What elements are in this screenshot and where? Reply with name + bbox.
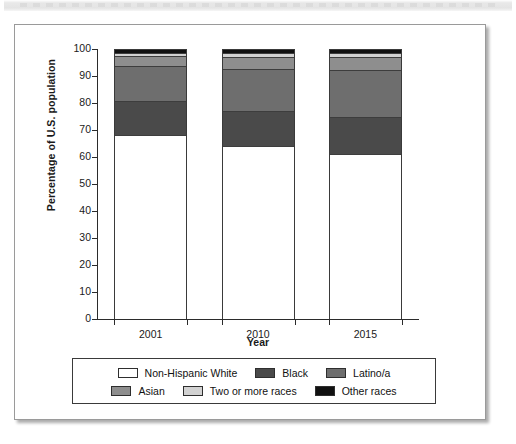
legend-label: Black [282, 367, 308, 379]
bar-segment-non-hispanic-white [330, 154, 401, 319]
bar-segment-asian [223, 57, 294, 69]
bar-segment-asian [330, 57, 401, 71]
y-tick-label: 40 [53, 205, 91, 216]
figure-card: Percentage of U.S. population 1009080706… [14, 24, 486, 420]
y-tick-mark [92, 184, 97, 185]
y-tick-mark [92, 157, 97, 158]
y-tick-label: 80 [53, 97, 91, 108]
legend-swatch-non-hispanic-white [118, 368, 138, 378]
legend-swatch-asian [111, 386, 131, 396]
bar-segment-black [115, 101, 186, 135]
y-tick-mark [92, 76, 97, 77]
x-tick-mark [402, 319, 403, 325]
legend-swatch-latino-a [326, 368, 346, 378]
bar-segment-non-hispanic-white [115, 135, 186, 319]
bar-segment-black [330, 117, 401, 153]
legend-item: Non-Hispanic White [118, 367, 238, 379]
bar-segment-non-hispanic-white [223, 146, 294, 319]
legend-row: AsianTwo or more racesOther races [73, 382, 435, 400]
y-tick-mark [92, 49, 97, 50]
legend-item: Black [255, 367, 308, 379]
y-tick-mark [92, 103, 97, 104]
y-tick-label: 20 [53, 259, 91, 270]
y-tick-label: 0 [53, 313, 91, 324]
y-tick-label: 50 [53, 178, 91, 189]
bar-segment-black [223, 111, 294, 146]
legend-label: Two or more races [210, 385, 297, 397]
chart-legend: Non-Hispanic WhiteBlackLatino/a AsianTwo… [72, 358, 436, 404]
y-tick-label: 10 [53, 286, 91, 297]
y-tick-mark [92, 238, 97, 239]
x-tick-mark [222, 319, 223, 325]
x-tick-mark [114, 319, 115, 325]
legend-label: Latino/a [353, 367, 390, 379]
bar-segment-latino-a [115, 66, 186, 101]
legend-label: Non-Hispanic White [145, 367, 238, 379]
x-tick-mark [295, 319, 296, 325]
x-axis-title: Year [97, 336, 419, 348]
legend-swatch-black [255, 368, 275, 378]
legend-item: Two or more races [183, 385, 297, 397]
y-tick-mark [92, 292, 97, 293]
x-axis-line [97, 319, 419, 320]
x-tick-mark [329, 319, 330, 325]
legend-label: Asian [138, 385, 164, 397]
y-tick-label: 100 [53, 43, 91, 54]
bar-2015 [329, 49, 402, 319]
y-tick-label: 60 [53, 151, 91, 162]
bar-segment-latino-a [223, 69, 294, 111]
legend-swatch-two-or-more-races [183, 386, 203, 396]
page-header-strip [4, 0, 512, 11]
legend-row: Non-Hispanic WhiteBlackLatino/a [73, 364, 435, 382]
y-tick-mark [92, 265, 97, 266]
y-tick-label: 90 [53, 70, 91, 81]
y-tick-mark [92, 130, 97, 131]
legend-item: Other races [315, 385, 397, 397]
y-tick-label: 70 [53, 124, 91, 135]
legend-item: Latino/a [326, 367, 390, 379]
plot-area: 1009080706050403020100 200120102015 [97, 49, 419, 319]
chart-figure: Percentage of U.S. population 1009080706… [15, 25, 487, 421]
legend-item: Asian [111, 385, 164, 397]
bar-segment-latino-a [330, 70, 401, 117]
bar-2001 [114, 49, 187, 319]
y-tick-label: 30 [53, 232, 91, 243]
bar-segment-asian [115, 56, 186, 66]
bar-2010 [222, 49, 295, 319]
y-tick-mark [92, 319, 97, 320]
y-tick-mark [92, 211, 97, 212]
legend-swatch-other-races [315, 386, 335, 396]
header-text-ghost [20, 3, 496, 7]
legend-label: Other races [342, 385, 397, 397]
x-tick-mark [187, 319, 188, 325]
y-axis-line [97, 49, 98, 320]
